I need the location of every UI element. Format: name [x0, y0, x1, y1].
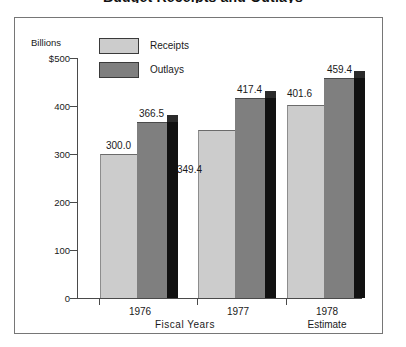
y-tick-mark-500 — [70, 58, 78, 59]
legend-item-receipts: Receipts — [99, 37, 189, 54]
y-tick-label-200: 200 — [24, 197, 70, 208]
y-tick-mark-0 — [70, 298, 78, 299]
bar-value-receipts-1978: 401.6 — [271, 88, 328, 99]
x-cat-label-1977: 1977 — [203, 306, 273, 317]
x-tick-mark-1976 — [99, 299, 100, 305]
y-tick-label-500: $500 — [24, 53, 70, 64]
legend-item-outlays: Outlays — [99, 61, 189, 78]
bar-receipts-1977 — [198, 130, 235, 298]
y-axis-line — [77, 58, 78, 299]
x-cat-label-1976: 1976 — [105, 306, 175, 317]
y-axis-title: Billions — [31, 37, 61, 48]
y-tick-label-100: 100 — [24, 245, 70, 256]
bar-outlays-1977 — [235, 98, 265, 298]
bar-value-outlays-1977: 417.4 — [221, 84, 278, 95]
x-cat-sublabel-1978: Estimate — [292, 319, 362, 330]
legend-label-receipts: Receipts — [150, 40, 189, 51]
bar-outlays-1976 — [137, 122, 167, 298]
x-axis-line — [77, 298, 362, 299]
x-axis-title: Fiscal Years — [155, 319, 215, 330]
legend-swatch-receipts — [99, 38, 139, 54]
chart-frame: Billions $500 400 300 200 100 0 Receipts… — [14, 17, 383, 334]
bar-value-outlays-1978: 459.4 — [311, 64, 368, 75]
x-tick-mark-1977 — [197, 299, 198, 305]
x-tick-mark-1978 — [286, 299, 287, 305]
bar-value-outlays-1976: 366.5 — [123, 108, 180, 119]
y-tick-mark-100 — [70, 250, 78, 251]
y-tick-mark-300 — [70, 154, 78, 155]
legend: Receipts Outlays — [99, 37, 189, 85]
bar-side-outlays-1976 — [167, 122, 178, 298]
x-cat-label-1978: 1978 — [292, 306, 362, 317]
bar-value-receipts-1977: 349.4 — [161, 164, 218, 175]
bar-side-outlays-1978 — [354, 78, 365, 298]
legend-label-outlays: Outlays — [150, 64, 184, 75]
plot-area: Billions $500 400 300 200 100 0 Receipts… — [15, 18, 384, 335]
bar-side-outlays-1977 — [265, 98, 276, 298]
bar-receipts-1978 — [287, 105, 324, 298]
chart-title: Budget Receipts and Outlays — [0, 0, 406, 3]
y-tick-label-400: 400 — [24, 101, 70, 112]
y-tick-label-300: 300 — [24, 149, 70, 160]
bar-outlays-1978 — [324, 78, 354, 298]
y-tick-label-0: 0 — [24, 293, 70, 304]
legend-swatch-outlays — [99, 62, 139, 78]
y-tick-mark-400 — [70, 106, 78, 107]
bar-receipts-1976 — [100, 154, 137, 298]
y-tick-mark-200 — [70, 202, 78, 203]
